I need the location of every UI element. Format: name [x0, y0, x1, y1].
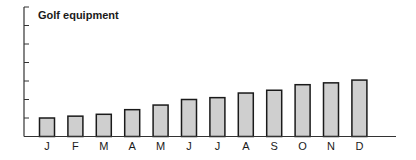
bar: [182, 100, 197, 137]
x-tick-label: M: [156, 140, 165, 152]
bar: [238, 93, 253, 136]
bar: [125, 110, 140, 137]
bar: [324, 83, 339, 137]
x-tick-label: J: [44, 140, 50, 152]
bars: [40, 80, 367, 136]
bar: [40, 118, 55, 137]
golf-equipment-bar-chart: Golf equipment JFMAMJJASOND: [0, 0, 416, 160]
bar: [267, 90, 282, 136]
x-tick-label: O: [298, 140, 307, 152]
bar: [352, 80, 367, 136]
bar: [68, 116, 83, 136]
x-tick-label: D: [355, 140, 363, 152]
bar: [96, 114, 111, 136]
x-tick-label: J: [215, 140, 221, 152]
x-tick-label: J: [186, 140, 192, 152]
bar: [295, 85, 310, 137]
chart-title: Golf equipment: [38, 9, 119, 21]
x-tick-label: N: [327, 140, 335, 152]
bar: [210, 98, 225, 137]
x-axis-labels: JFMAMJJASOND: [44, 140, 363, 152]
x-tick-label: S: [271, 140, 278, 152]
x-tick-label: A: [242, 140, 250, 152]
x-tick-label: M: [99, 140, 108, 152]
x-tick-label: A: [129, 140, 137, 152]
x-tick-label: F: [72, 140, 79, 152]
y-axis: [24, 7, 29, 137]
bar: [153, 105, 168, 136]
